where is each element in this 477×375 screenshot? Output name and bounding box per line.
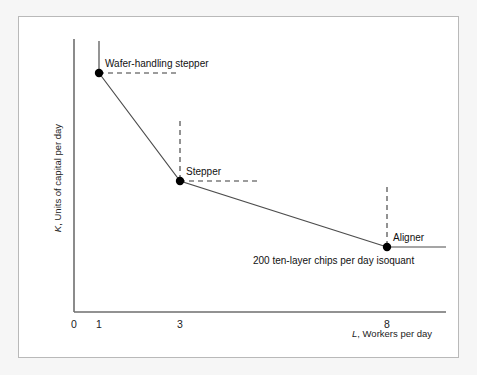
y-axis-label-symbol: K xyxy=(52,226,63,232)
isoquant-caption: 200 ten-layer chips per day isoquant xyxy=(253,255,414,266)
isoquant-plot xyxy=(19,17,458,357)
point-label-aligner: Aligner xyxy=(393,232,424,243)
point-label-stepper: Stepper xyxy=(186,166,221,177)
x-tick-label-1: 1 xyxy=(90,318,108,330)
data-point-wafer-handling-stepper xyxy=(95,69,103,77)
figure-page: K, Units of capital per day L, Workers p… xyxy=(0,0,477,375)
x-tick-label-0: 0 xyxy=(65,318,83,330)
point-label-wafer-handling-stepper: Wafer-handling stepper xyxy=(105,58,209,69)
x-tick-label-3: 3 xyxy=(171,318,189,330)
isoquant-line xyxy=(99,73,387,247)
y-axis-label: K, Units of capital per day xyxy=(48,53,66,303)
figure-frame: K, Units of capital per day L, Workers p… xyxy=(18,16,459,358)
data-point-stepper xyxy=(176,177,184,185)
data-point-aligner xyxy=(383,243,391,251)
y-axis-label-text: , Units of capital per day xyxy=(52,124,63,226)
x-tick-label-8: 8 xyxy=(378,318,396,330)
